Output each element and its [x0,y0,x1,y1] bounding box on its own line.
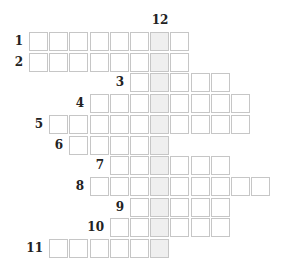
letter-cell[interactable] [170,198,189,217]
letter-cell[interactable] [130,156,149,175]
key-letter-cell[interactable] [150,32,169,51]
clue-number-3: 3 [100,73,124,92]
letter-cell[interactable] [90,53,109,72]
key-letter-cell[interactable] [150,239,169,258]
letter-cell[interactable] [170,73,189,92]
key-letter-cell[interactable] [150,94,169,113]
letter-cell[interactable] [170,115,189,134]
letter-cell[interactable] [231,177,250,196]
letter-cell[interactable] [211,218,230,237]
letter-cell[interactable] [170,94,189,113]
letter-cell[interactable] [191,218,210,237]
letter-cell[interactable] [110,53,129,72]
letter-cell[interactable] [69,53,88,72]
letter-cell[interactable] [130,218,149,237]
clue-number-4: 4 [60,94,84,113]
letter-cell[interactable] [130,115,149,134]
letter-cell[interactable] [110,32,129,51]
clue-number-7: 7 [80,156,104,175]
letter-cell[interactable] [90,239,109,258]
letter-cell[interactable] [130,198,149,217]
letter-cell[interactable] [90,32,109,51]
letter-cell[interactable] [130,94,149,113]
letter-cell[interactable] [191,115,210,134]
letter-cell[interactable] [231,94,250,113]
key-letter-cell[interactable] [150,198,169,217]
letter-cell[interactable] [211,115,230,134]
crossword-grid: 12 1234567891011 [0,0,283,269]
letter-cell[interactable] [110,239,129,258]
letter-cell[interactable] [170,32,189,51]
letter-cell[interactable] [110,94,129,113]
letter-cell[interactable] [170,177,189,196]
letter-cell[interactable] [69,32,88,51]
letter-cell[interactable] [191,198,210,217]
letter-cell[interactable] [211,198,230,217]
letter-cell[interactable] [110,177,129,196]
clue-number-12: 12 [148,11,172,30]
letter-cell[interactable] [211,73,230,92]
clue-number-9: 9 [100,198,124,217]
clue-number-2: 2 [0,53,23,72]
key-letter-cell[interactable] [150,156,169,175]
key-letter-cell[interactable] [150,136,169,155]
letter-cell[interactable] [130,53,149,72]
letter-cell[interactable] [90,136,109,155]
letter-cell[interactable] [49,115,68,134]
letter-cell[interactable] [170,156,189,175]
letter-cell[interactable] [69,136,88,155]
letter-cell[interactable] [110,218,129,237]
letter-cell[interactable] [130,177,149,196]
letter-cell[interactable] [110,136,129,155]
clue-number-5: 5 [19,115,43,134]
letter-cell[interactable] [231,115,250,134]
letter-cell[interactable] [69,239,88,258]
letter-cell[interactable] [49,53,68,72]
key-letter-cell[interactable] [150,218,169,237]
letter-cell[interactable] [110,115,129,134]
letter-cell[interactable] [49,32,68,51]
letter-cell[interactable] [170,218,189,237]
letter-cell[interactable] [191,94,210,113]
letter-cell[interactable] [90,115,109,134]
letter-cell[interactable] [90,94,109,113]
letter-cell[interactable] [191,73,210,92]
letter-cell[interactable] [69,115,88,134]
key-letter-cell[interactable] [150,115,169,134]
letter-cell[interactable] [191,156,210,175]
letter-cell[interactable] [49,239,68,258]
letter-cell[interactable] [29,53,48,72]
letter-cell[interactable] [211,156,230,175]
clue-number-6: 6 [39,136,63,155]
clue-number-8: 8 [60,177,84,196]
key-letter-cell[interactable] [150,53,169,72]
letter-cell[interactable] [191,177,210,196]
letter-cell[interactable] [110,156,129,175]
letter-cell[interactable] [130,73,149,92]
key-letter-cell[interactable] [150,177,169,196]
letter-cell[interactable] [130,136,149,155]
letter-cell[interactable] [170,53,189,72]
clue-number-10: 10 [80,218,104,237]
letter-cell[interactable] [130,32,149,51]
letter-cell[interactable] [130,239,149,258]
letter-cell[interactable] [29,32,48,51]
letter-cell[interactable] [90,177,109,196]
key-letter-cell[interactable] [150,73,169,92]
clue-number-11: 11 [19,239,43,258]
letter-cell[interactable] [211,177,230,196]
letter-cell[interactable] [211,94,230,113]
letter-cell[interactable] [251,177,270,196]
clue-number-1: 1 [0,32,23,51]
